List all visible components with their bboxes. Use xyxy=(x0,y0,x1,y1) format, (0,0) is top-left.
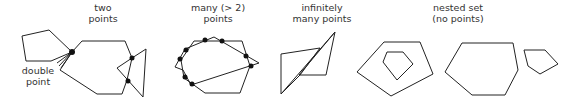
hexagon-large xyxy=(60,41,132,94)
pentagon-left xyxy=(22,30,72,61)
outer-pentagon xyxy=(357,42,433,96)
two-points-figure xyxy=(22,30,146,97)
diagram-canvas xyxy=(0,0,574,106)
small-pentagon xyxy=(524,50,558,74)
polygon-overlap xyxy=(175,37,259,85)
intersection-point xyxy=(126,79,131,84)
nested-set-figure xyxy=(357,42,558,96)
double-point-marker xyxy=(69,49,75,55)
hexagon xyxy=(445,43,518,95)
inner-pentagon xyxy=(383,52,413,80)
many-points-figure xyxy=(175,37,259,93)
infinitely-many-figure xyxy=(281,32,335,94)
intersection-point xyxy=(130,56,135,61)
